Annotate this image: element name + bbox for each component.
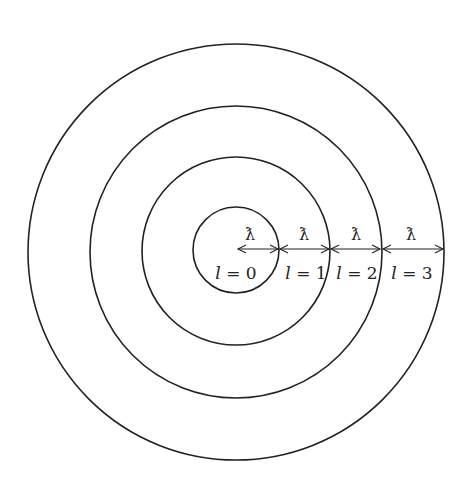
wavelength-arrow-l0 <box>238 245 278 253</box>
wavelength-arrow-l1 <box>280 245 329 253</box>
lambda-bar-label-l1: ƛ <box>299 225 309 244</box>
lambda-bar-label-l0: ƛ <box>245 225 255 244</box>
lambda-bar-label-l2: ƛ <box>351 225 361 244</box>
l-label-0: l = 0 <box>215 263 256 283</box>
l-label-1: l = 1 <box>285 263 326 283</box>
l-label-2: l = 2 <box>336 263 377 283</box>
circle-l1 <box>142 157 330 345</box>
l-label-3: l = 3 <box>391 263 432 283</box>
wavelength-arrow-l2 <box>331 245 380 253</box>
lambda-bar-label-l3: ƛ <box>406 225 416 244</box>
partial-wave-zones-diagram: ƛ l = 0 ƛ l = 1 ƛ l = 2 ƛ l = 3 <box>0 0 466 481</box>
wavelength-arrow-l3 <box>383 245 443 253</box>
